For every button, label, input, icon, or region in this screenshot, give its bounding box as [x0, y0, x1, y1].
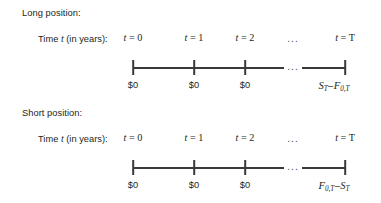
tick-eq: = T	[338, 32, 355, 43]
cash-flow-row-long: $0 $0 $0 ST–F0,T	[0, 80, 381, 96]
axis-segment-main	[133, 67, 284, 69]
axis-tick-t2	[244, 60, 246, 75]
cash-flow-t0: $0	[128, 80, 138, 90]
timeline-axis-long: ...	[0, 60, 381, 78]
time-tick-label-t0: t = 0	[124, 132, 143, 143]
time-tick-labels-long: t = 0 t = 1 t = 2 ... t = T	[0, 32, 381, 46]
tick-eq: = 1	[187, 32, 203, 43]
cash-flow-t0: $0	[128, 180, 138, 190]
tick-eq: = 0	[126, 132, 142, 143]
tick-eq: = 0	[126, 32, 142, 43]
time-tick-ellipsis: ...	[287, 133, 298, 144]
cash-flow-t2: $0	[240, 180, 250, 190]
axis-segment-main	[133, 167, 284, 169]
cash-flow-t1: $0	[189, 80, 199, 90]
time-tick-label-t0: t = 0	[124, 32, 143, 43]
axis-tick-t0	[132, 160, 134, 175]
payoff-second-subscript: 0,T	[340, 85, 349, 93]
time-tick-labels-short: t = 0 t = 1 t = 2 ... t = T	[0, 132, 381, 146]
cash-flow-row-short: $0 $0 $0 F0,T–ST	[0, 180, 381, 196]
axis-tick-t1	[193, 60, 195, 75]
cash-flow-t2: $0	[240, 80, 250, 90]
time-tick-label-tT: t = T	[335, 32, 355, 43]
axis-tick-t2	[244, 160, 246, 175]
tick-eq: = 2	[238, 32, 254, 43]
tick-eq: = 1	[187, 132, 203, 143]
payoff-first-subscript: 0,T	[325, 185, 334, 193]
short-position-heading: Short position:	[22, 108, 82, 118]
figure-canvas: Long position: Time t (in years): t = 0 …	[0, 0, 381, 203]
payoff-second-subscript: T	[346, 185, 350, 193]
axis-ellipsis: ...	[287, 161, 298, 172]
time-tick-label-t1: t = 1	[185, 132, 204, 143]
axis-tick-tT	[344, 60, 346, 75]
cash-flow-tT-payoff: ST–F0,T	[318, 80, 349, 93]
axis-tick-t0	[132, 60, 134, 75]
long-position-heading: Long position:	[22, 8, 81, 18]
cash-flow-t1: $0	[189, 180, 199, 190]
time-tick-ellipsis: ...	[287, 33, 298, 44]
tick-eq: = T	[338, 132, 355, 143]
axis-tick-t1	[193, 160, 195, 175]
time-tick-label-tT: t = T	[335, 132, 355, 143]
cash-flow-tT-payoff: F0,T–ST	[318, 180, 349, 193]
time-tick-label-t1: t = 1	[185, 32, 204, 43]
axis-ellipsis: ...	[287, 61, 298, 72]
time-tick-label-t2: t = 2	[236, 132, 255, 143]
axis-tick-tT	[344, 160, 346, 175]
time-tick-label-t2: t = 2	[236, 32, 255, 43]
timeline-axis-short: ...	[0, 160, 381, 178]
axis-segment-tail	[302, 67, 345, 69]
tick-eq: = 2	[238, 132, 254, 143]
axis-segment-tail	[302, 167, 345, 169]
